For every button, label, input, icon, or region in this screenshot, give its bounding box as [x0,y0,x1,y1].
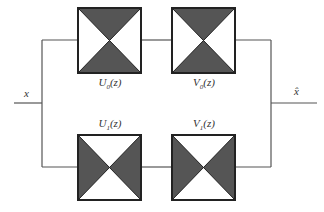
label-V0: V0(z) [193,76,215,91]
label-V1-arg: (z) [203,117,215,129]
block-V0 [172,8,235,73]
input-label: x [24,87,29,99]
label-U0-arg: (z) [110,76,122,88]
label-U0-name: U [98,76,106,88]
block-V1 [172,135,235,200]
label-V1: V1(z) [193,117,215,132]
label-V1-name: V [193,117,200,129]
label-U1-name: U [98,117,106,129]
label-V0-arg: (z) [203,76,215,88]
label-U1-arg: (z) [110,117,122,129]
output-label: x̂ [294,85,299,97]
connection-lines [14,40,317,167]
block-U0 [78,8,141,73]
label-U0: U0(z) [98,76,121,91]
filter-bank-diagram [0,0,324,212]
label-U1: U1(z) [98,117,121,132]
block-U1 [78,135,141,200]
label-V0-name: V [193,76,200,88]
